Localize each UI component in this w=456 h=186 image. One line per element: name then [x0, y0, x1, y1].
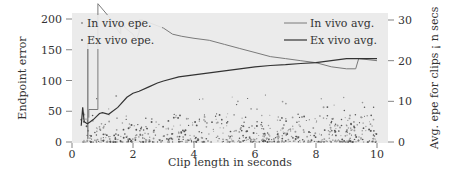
in-vivo-epe-marker [81, 22, 83, 24]
svg-text:0: 0 [55, 136, 62, 149]
svg-text:50: 50 [48, 105, 62, 118]
legend-left: In vivo epe. Ex vivo epe. [77, 15, 162, 49]
svg-text:0: 0 [69, 148, 76, 161]
legend-ex-vivo-epe: Ex vivo epe. [87, 34, 154, 47]
svg-text:0: 0 [398, 136, 405, 149]
legend-in-vivo-epe: In vivo epe. [87, 17, 152, 30]
svg-text:10: 10 [370, 148, 384, 161]
svg-text:30: 30 [398, 14, 412, 27]
y-axis-left: 050100150200 [41, 13, 72, 149]
svg-text:2: 2 [130, 148, 137, 161]
svg-text:20: 20 [398, 55, 412, 68]
legend-right: In vivo avg. Ex vivo avg. [280, 13, 384, 49]
svg-text:150: 150 [41, 44, 62, 57]
chart: 050100150200 0102030 0246810 Clip length… [0, 0, 456, 186]
svg-text:10: 10 [398, 95, 412, 108]
legend-ex-vivo-avg: Ex vivo avg. [310, 34, 377, 47]
legend-in-vivo-avg: In vivo avg. [310, 17, 374, 30]
ex-vivo-epe-marker [81, 39, 83, 41]
svg-text:100: 100 [41, 75, 62, 88]
y-axis-right: 0102030 [388, 14, 412, 149]
svg-text:8: 8 [313, 148, 320, 161]
y-axis-right-title: Avg. epe for clips ¡ n secs [428, 6, 441, 150]
x-axis-title: Clip length in seconds [168, 156, 292, 169]
y-axis-left-title: Endpoint error [16, 36, 29, 120]
svg-text:200: 200 [41, 13, 62, 26]
